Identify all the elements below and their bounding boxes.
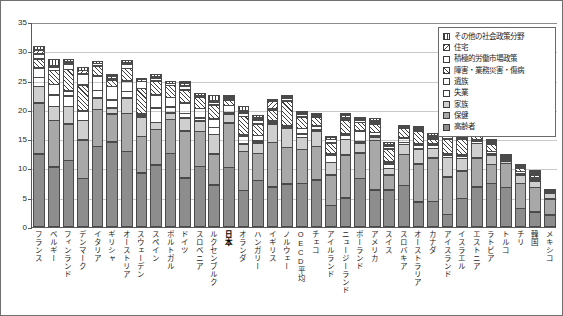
legend-item[interactable]: 住宅 bbox=[443, 42, 551, 53]
x-axis-label-9: ポルトガル bbox=[166, 230, 174, 270]
bar-segment-family bbox=[471, 143, 483, 158]
bar-stack bbox=[238, 106, 250, 227]
x-axis-label-11: スロベニア bbox=[195, 230, 203, 270]
bar-segment-disability bbox=[252, 124, 264, 136]
x-axis-label-30: エストニア bbox=[472, 230, 480, 270]
legend-swatch-unemployment bbox=[443, 90, 450, 97]
bar-segment-elderly bbox=[136, 173, 148, 227]
bar-segment-survivors bbox=[165, 97, 177, 107]
bar-segment-survivors bbox=[121, 81, 133, 92]
bar-stack bbox=[281, 96, 293, 227]
bar-segment-disability bbox=[92, 66, 104, 77]
bar-segment-family bbox=[194, 121, 206, 132]
bar-segment-health bbox=[500, 163, 512, 188]
bar-segment-health bbox=[63, 124, 75, 161]
x-axis-label-7: スウェーデン bbox=[136, 230, 144, 278]
bar-segment-health bbox=[150, 129, 162, 165]
bar-stack bbox=[486, 140, 498, 227]
bar-segment-disability bbox=[77, 85, 89, 111]
legend-item[interactable]: その他の社会政策分野 bbox=[443, 31, 551, 42]
bar-segment-family bbox=[92, 98, 104, 110]
bar-segment-health bbox=[77, 140, 89, 179]
legend-item[interactable]: 保健 bbox=[443, 110, 551, 121]
bar-segment-health bbox=[427, 158, 439, 202]
bar-segment-family bbox=[77, 120, 89, 140]
bar-segment-family bbox=[325, 162, 337, 175]
legend-item[interactable]: 高齢者 bbox=[443, 121, 551, 132]
x-axis-label-17: ノルウェー bbox=[282, 230, 290, 270]
bar-stack bbox=[413, 127, 425, 227]
bar-segment-elderly bbox=[529, 212, 541, 227]
x-axis-label-21: ニュージーランド bbox=[341, 230, 349, 294]
y-tick-label: 15 bbox=[18, 136, 27, 144]
bar-segment-family bbox=[311, 131, 323, 146]
bar-segment-elderly bbox=[150, 165, 162, 227]
x-axis-label-5: ギリシャ bbox=[107, 230, 115, 262]
bar-segment-disability bbox=[398, 128, 410, 138]
bar-segment-disability bbox=[179, 90, 191, 103]
bar-segment-health bbox=[340, 155, 352, 198]
bar-segment-family bbox=[63, 106, 75, 124]
x-axis-label-14: オランダ bbox=[238, 230, 246, 262]
legend-swatch-elderly bbox=[443, 124, 450, 131]
bar-segment-family bbox=[33, 86, 45, 103]
bar-segment-unemployment bbox=[48, 95, 60, 107]
bar-segment-elderly bbox=[165, 153, 177, 227]
bar-segment-survivors bbox=[106, 86, 118, 100]
bar-segment-unemployment bbox=[150, 108, 162, 123]
legend-label: 遺族 bbox=[454, 78, 468, 86]
bar-segment-elderly bbox=[121, 151, 133, 227]
bar-segment-health bbox=[48, 120, 60, 167]
y-tick-label: 0 bbox=[23, 224, 27, 232]
bar-segment-health bbox=[208, 154, 220, 186]
legend-label: 積極的労働市場政策 bbox=[454, 55, 517, 63]
x-axis-label-24: スイス bbox=[384, 230, 392, 254]
y-tick-label: 20 bbox=[18, 107, 27, 115]
bar-segment-family bbox=[179, 118, 191, 131]
bar-segment-health bbox=[383, 175, 395, 190]
bar-segment-health bbox=[486, 164, 498, 183]
bar-segment-disability bbox=[325, 143, 337, 155]
legend-label: 失業 bbox=[454, 89, 468, 97]
legend-item[interactable]: 障害・業務災害・傷病 bbox=[443, 65, 551, 76]
bar-segment-family bbox=[296, 137, 308, 149]
bar-stack bbox=[471, 130, 483, 227]
bar-segment-disability bbox=[442, 139, 454, 154]
x-axis-label-25: スロバキア bbox=[399, 230, 407, 270]
bar-segment-survivors bbox=[179, 103, 191, 114]
bar-segment-elderly bbox=[398, 185, 410, 227]
bar-segment-disability bbox=[136, 88, 148, 113]
bar-stack bbox=[106, 74, 118, 227]
bar-segment-family bbox=[398, 144, 410, 155]
legend-item[interactable]: 遺族 bbox=[443, 76, 551, 87]
bar-segment-disability bbox=[413, 131, 425, 144]
legend-item[interactable]: 失業 bbox=[443, 87, 551, 98]
bar-stack bbox=[179, 82, 191, 227]
bar-segment-health bbox=[238, 151, 250, 190]
bar-segment-family bbox=[136, 117, 148, 137]
bar-segment-elderly bbox=[194, 166, 206, 227]
bar-segment-health bbox=[194, 131, 206, 166]
legend-item[interactable]: 家族 bbox=[443, 99, 551, 110]
bar-segment-elderly bbox=[340, 198, 352, 227]
x-axis-label-33: チリ bbox=[516, 230, 524, 246]
bar-segment-disability bbox=[383, 149, 395, 162]
x-axis-label-34: 韓国 bbox=[530, 230, 538, 246]
bar-segment-family bbox=[267, 124, 279, 143]
x-axis-label-10: ドイツ bbox=[180, 230, 188, 254]
x-axis-label-22: ポーランド bbox=[355, 230, 363, 270]
bar-segment-health bbox=[325, 175, 337, 206]
bar-segment-disability bbox=[208, 105, 220, 120]
bar-stack bbox=[544, 189, 556, 227]
bar-segment-family bbox=[340, 139, 352, 155]
legend-item[interactable]: 積極的労働市場政策 bbox=[443, 54, 551, 65]
bar-segment-disability bbox=[340, 120, 352, 135]
bar-segment-health bbox=[267, 142, 279, 187]
bar-segment-elderly bbox=[354, 178, 366, 227]
y-tick-label: 25 bbox=[18, 78, 27, 86]
x-axis-label-4: イタリア bbox=[93, 230, 101, 262]
legend-swatch-disability bbox=[443, 67, 450, 74]
bar-segment-elderly bbox=[92, 146, 104, 227]
legend-swatch-family bbox=[443, 101, 450, 108]
bar-segment-disability bbox=[33, 59, 45, 69]
